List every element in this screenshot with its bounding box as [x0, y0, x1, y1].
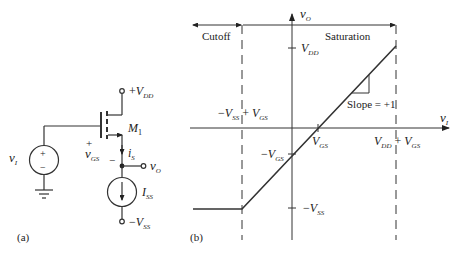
cutoff-label: Cutoff — [202, 30, 231, 42]
right-boundary-label: VDD + VGS — [374, 134, 421, 150]
vgs-minus-sign: − — [109, 154, 115, 166]
left-boundary-label: −VSS + VGS — [218, 106, 268, 122]
vgs-label: vGS — [85, 146, 100, 163]
graph-panel — [190, 14, 449, 240]
figure: + − vI +VDD M1 + vGS − iS vO ISS −VSS (a… — [0, 0, 466, 258]
neg-vss-tick-label: −VSS — [303, 201, 325, 217]
slope-annotation: Slope = +1 — [347, 98, 395, 110]
y-axis-label: vO — [300, 6, 311, 23]
is-label: iS — [128, 146, 135, 162]
vout-terminal-icon — [141, 164, 146, 169]
vdd-terminal-icon — [120, 89, 125, 94]
vi-plus-sign: + — [40, 148, 46, 159]
vdd-label: +VDD — [129, 84, 153, 100]
iss-label: ISS — [141, 185, 154, 201]
m1-label: M1 — [127, 121, 142, 137]
vi-label: vI — [9, 150, 18, 167]
neg-vgs-tick-label: −VGS — [261, 147, 284, 163]
vo-label: vO — [150, 158, 161, 175]
vss-label: −VSS — [129, 215, 151, 231]
circuit-labels: + − vI +VDD M1 + vGS − iS vO ISS −VSS (a… — [9, 84, 161, 244]
panel-label-b: (b) — [190, 231, 203, 244]
vss-terminal-icon — [120, 219, 125, 224]
vdd-tick-label: VDD — [301, 41, 318, 57]
vi-minus-sign: − — [40, 162, 46, 173]
vgs-x-tick-label: VGS — [312, 134, 328, 150]
ground-icon — [35, 190, 53, 198]
x-axis-label: vI — [440, 110, 449, 127]
panel-label-a: (a) — [17, 231, 30, 244]
saturation-label: Saturation — [325, 30, 371, 42]
